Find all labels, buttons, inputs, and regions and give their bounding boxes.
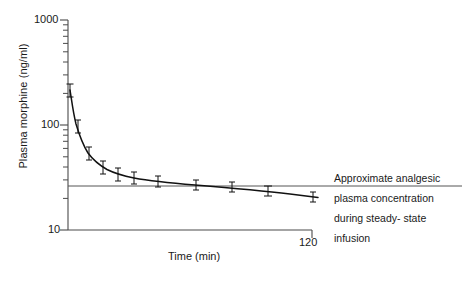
annotation-line-4: infusion [334, 232, 370, 244]
annotation-line-2: plasma concentration [334, 192, 434, 204]
y-axis-minor-ticks [63, 25, 68, 199]
y-tick-label-100: 100 [41, 118, 59, 130]
chart-canvas [0, 0, 467, 281]
error-bar-point [229, 182, 235, 192]
annotation-line-3: during steady- state [334, 212, 426, 224]
y-axis-label: Plasma morphine (ng/ml) [17, 21, 29, 191]
y-tick-label-10: 10 [48, 223, 60, 235]
y-tick-label-1000: 1000 [34, 13, 58, 25]
annotation-line-1: Approximate analgesic [334, 172, 440, 184]
chart-figure: Plasma morphine (ng/ml) Time (min) 1000 … [0, 0, 467, 281]
error-bar-point [86, 147, 92, 160]
x-tick-label-120: 120 [299, 236, 317, 248]
x-axis-label: Time (min) [168, 250, 220, 262]
plasma-morphine-curve [70, 90, 318, 197]
